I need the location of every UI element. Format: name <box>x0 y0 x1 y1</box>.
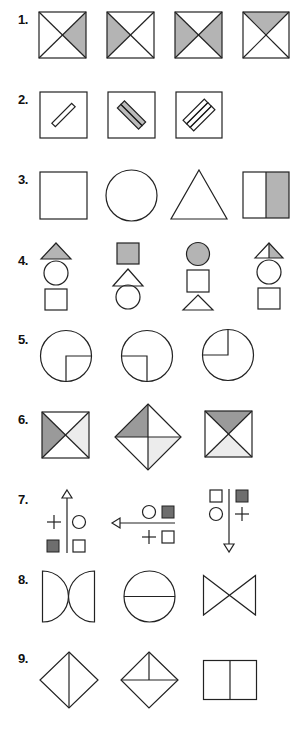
q7-figure-1-arrow-up <box>44 490 90 554</box>
question-1-number: 1. <box>18 12 28 27</box>
q8-figure-1 <box>42 570 95 623</box>
q3-triangle <box>171 170 227 219</box>
q2-figure-3 <box>176 92 222 138</box>
q7-figure-2-arrow-left <box>112 505 176 547</box>
q3-square <box>40 172 87 219</box>
q9-figure-3 <box>203 660 257 701</box>
q5-figure-3 <box>202 329 256 383</box>
q6-figure-2 <box>115 404 181 470</box>
q9-figure-2 <box>120 651 180 709</box>
q7-figure-3-arrow-down <box>208 488 250 553</box>
question-3-number: 3. <box>18 172 28 187</box>
question-9-number: 9. <box>18 651 28 666</box>
question-4-number: 4. <box>18 253 28 268</box>
q8-figure-3 <box>203 575 256 617</box>
q4-figure-4 <box>252 242 286 310</box>
q8-figure-2 <box>123 570 176 623</box>
q2-figure-1 <box>40 92 87 138</box>
q6-figure-3 <box>205 411 252 457</box>
q1-figure-4 <box>243 12 289 58</box>
question-6-number: 6. <box>18 412 28 427</box>
question-7-number: 7. <box>18 492 28 507</box>
q3-circle <box>105 169 158 222</box>
q5-figure-2 <box>121 330 175 384</box>
question-5-number: 5. <box>18 332 28 347</box>
question-8-number: 8. <box>18 572 28 587</box>
q3-half-shaded-square <box>243 172 289 218</box>
q1-figure-1 <box>39 12 86 58</box>
q1-figure-2 <box>107 12 154 58</box>
q4-figure-2 <box>111 242 145 310</box>
question-2-number: 2. <box>18 92 28 107</box>
q4-figure-3 <box>181 242 215 310</box>
q9-figure-1 <box>39 651 99 709</box>
q5-figure-1 <box>40 330 94 384</box>
q2-figure-2 <box>108 92 155 138</box>
q4-figure-1 <box>40 243 72 311</box>
q6-figure-1 <box>42 412 89 458</box>
q1-figure-3 <box>175 12 222 58</box>
